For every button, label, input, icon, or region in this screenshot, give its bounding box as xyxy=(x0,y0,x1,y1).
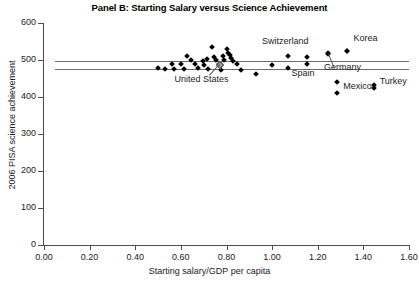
data-point xyxy=(269,62,275,68)
x-axis-tick-label: 0.60 xyxy=(161,252,201,262)
data-point xyxy=(171,66,177,72)
x-axis-tick xyxy=(44,245,45,250)
x-axis-tick xyxy=(318,245,319,250)
y-axis-tick-label: 0 xyxy=(0,239,36,249)
chart-title: Panel B: Starting Salary versus Science … xyxy=(0,2,419,13)
y-axis-tick xyxy=(38,171,43,172)
y-axis-tick xyxy=(38,245,43,246)
x-axis-tick xyxy=(272,245,273,250)
data-point xyxy=(181,66,187,72)
x-axis-tick-label: 0.00 xyxy=(24,252,64,262)
data-point-switzerland xyxy=(285,53,291,59)
data-point-mexico xyxy=(334,90,340,96)
x-axis-tick-label: 1.20 xyxy=(298,252,338,262)
point-label-spain: Spain xyxy=(291,68,314,78)
data-point xyxy=(285,65,291,71)
data-point-spain xyxy=(305,62,311,68)
x-axis-tick xyxy=(363,245,364,250)
x-axis-tick-label: 1.40 xyxy=(343,252,383,262)
y-axis-tick-label: 500 xyxy=(0,54,36,64)
data-point-korea xyxy=(345,49,351,55)
data-point xyxy=(234,62,240,68)
y-axis-tick-label: 100 xyxy=(0,202,36,212)
data-point xyxy=(205,66,211,72)
x-axis-title: Starting salary/GDP per capita xyxy=(0,266,419,276)
x-axis-tick xyxy=(181,245,182,250)
data-point xyxy=(221,57,227,63)
data-point xyxy=(155,65,161,71)
x-axis-tick-label: 1.60 xyxy=(389,252,419,262)
y-axis-line xyxy=(43,23,44,245)
chart-panel-b: Panel B: Starting Salary versus Science … xyxy=(0,0,419,284)
point-label-united-states: United States xyxy=(175,74,229,84)
point-label-korea: Korea xyxy=(353,33,377,43)
y-axis-tick-label: 400 xyxy=(0,91,36,101)
x-axis-tick xyxy=(409,245,410,250)
data-point xyxy=(238,67,244,73)
x-axis-tick-label: 0.80 xyxy=(207,252,247,262)
x-axis-tick xyxy=(135,245,136,250)
data-point xyxy=(162,66,168,72)
data-point xyxy=(253,71,259,77)
data-point xyxy=(305,54,311,60)
data-point xyxy=(334,79,340,85)
point-label-germany: Germany xyxy=(324,62,361,72)
data-point xyxy=(195,65,201,71)
y-axis-tick xyxy=(38,208,43,209)
y-axis-tick-label: 300 xyxy=(0,128,36,138)
point-label-turkey: Turkey xyxy=(380,76,407,86)
x-axis-tick-label: 0.40 xyxy=(115,252,155,262)
y-axis-tick-label: 600 xyxy=(0,17,36,27)
data-point-turkey xyxy=(371,85,377,91)
y-axis-tick xyxy=(38,23,43,24)
y-axis-tick-label: 200 xyxy=(0,165,36,175)
x-axis-tick-label: 1.00 xyxy=(252,252,292,262)
x-axis-tick-label: 0.20 xyxy=(70,252,110,262)
y-axis-tick xyxy=(38,60,43,61)
point-label-mexico: Mexico xyxy=(343,81,372,91)
x-axis-tick xyxy=(227,245,228,250)
data-point xyxy=(209,45,215,51)
y-axis-tick xyxy=(38,134,43,135)
y-axis-tick xyxy=(38,97,43,98)
x-axis-tick xyxy=(90,245,91,250)
point-label-switzerland: Switzerland xyxy=(262,36,309,46)
